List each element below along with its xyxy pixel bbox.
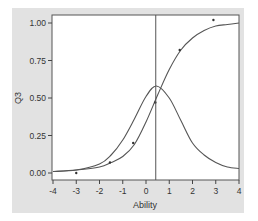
observed-point <box>75 172 77 174</box>
x-tick-label: 1 <box>167 186 172 196</box>
x-tick-label: 4 <box>237 186 242 196</box>
x-axis: -4-3-2-101234 <box>49 180 241 196</box>
y-tick-label: 0.25 <box>29 131 46 141</box>
y-tick-label: 0.00 <box>29 168 46 178</box>
y-axis-title: Q3 <box>13 92 23 104</box>
x-tick-label: -1 <box>119 186 127 196</box>
y-axis: 0.000.250.500.751.00 <box>29 18 52 178</box>
y-tick-label: 0.75 <box>29 56 46 66</box>
x-tick-label: -3 <box>72 186 80 196</box>
x-tick-label: -2 <box>96 186 104 196</box>
chart: 0.000.250.500.751.00 -4-3-2-101234 Abili… <box>0 0 258 221</box>
x-tick-label: 2 <box>190 186 195 196</box>
observed-point <box>179 49 181 51</box>
observed-point <box>109 161 111 163</box>
x-tick-label: 3 <box>213 186 218 196</box>
x-tick-label: 0 <box>144 186 149 196</box>
y-tick-label: 1.00 <box>29 18 46 28</box>
observed-point <box>212 19 214 21</box>
y-tick-label: 0.50 <box>29 93 46 103</box>
x-axis-title: Ability <box>133 200 158 210</box>
observed-point <box>132 142 134 144</box>
x-tick-label: -4 <box>49 186 57 196</box>
